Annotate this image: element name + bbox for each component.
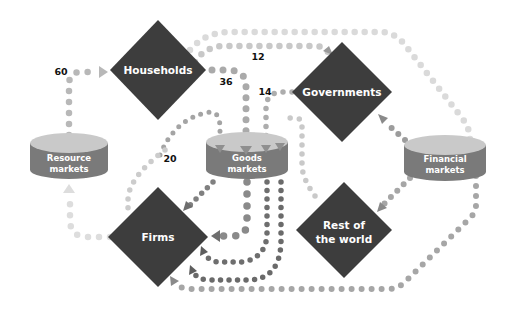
flow-goods-to-firms-loop2	[204, 182, 267, 262]
flow-firms-to-resource	[70, 195, 110, 237]
circular-flow-diagram: Households Governments Firms Rest of the…	[0, 0, 512, 309]
financial-markets-label-2: markets	[425, 165, 464, 175]
arrow-financial-firms	[170, 276, 179, 286]
flow-value-36: 36	[219, 76, 233, 87]
firms-label: Firms	[141, 231, 174, 243]
flow-value-12: 12	[251, 51, 264, 62]
market-goods: Goods markets	[206, 132, 288, 179]
flow-financial-to-governments	[385, 122, 405, 140]
flow-goods-to-firms-loop1	[222, 182, 247, 236]
flow-value-14: 14	[258, 86, 272, 97]
goods-markets-label-1: Goods	[232, 153, 262, 163]
flow-resource-to-households	[69, 72, 96, 135]
arrow-to-resource	[63, 184, 75, 193]
households-label: Households	[124, 64, 193, 76]
flow-value-60: 60	[54, 66, 68, 77]
actor-governments: Governments	[292, 42, 392, 142]
arrow-to-households	[99, 66, 108, 78]
market-resource: Resource markets	[30, 133, 108, 179]
arrow-financial-governments	[378, 114, 388, 124]
arrow-goods-firms-loop1	[211, 230, 220, 242]
resource-markets-label-1: Resource	[47, 153, 91, 163]
flow-rest-of-world-to-goods	[286, 118, 315, 196]
market-financial: Financial markets	[404, 135, 486, 181]
flow-governments-to-goods	[266, 92, 292, 138]
actor-households: Households	[110, 20, 206, 120]
flow-value-20: 20	[163, 153, 177, 164]
rest-of-world-label-2: the world	[316, 233, 372, 245]
rest-of-world-label-1: Rest of	[323, 219, 365, 231]
governments-label: Governments	[302, 86, 381, 98]
resource-markets-label-2: markets	[49, 164, 88, 174]
actor-rest-of-world: Rest of the world	[296, 182, 392, 278]
goods-markets-label-2: markets	[227, 164, 266, 174]
flow-goods-to-firms-diagonal	[190, 182, 213, 205]
financial-markets-label-1: Financial	[423, 154, 466, 164]
arrow-goods-firms-loop2	[200, 246, 208, 256]
flow-financial-to-rest-of-world	[383, 178, 410, 205]
